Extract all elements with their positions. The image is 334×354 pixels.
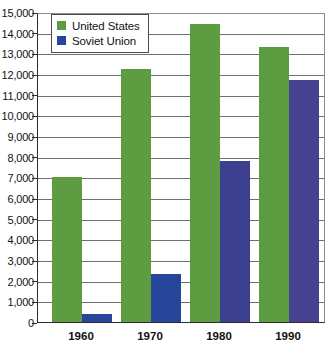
bar-united-states-1980 (190, 24, 220, 322)
y-tick-label: 9,000 (0, 131, 34, 143)
bar-soviet-union-1980 (220, 161, 250, 322)
bar-chart: 01,0002,0003,0004,0005,0006,0007,0008,00… (0, 0, 334, 354)
x-tick-label-1970: 1970 (137, 330, 163, 342)
y-tick-label: 5,000 (0, 214, 34, 226)
y-tick-label: 12,000 (0, 69, 34, 81)
y-tick-label: 11,000 (0, 90, 34, 102)
legend-label-soviet-union: Soviet Union (72, 35, 136, 47)
y-tick-label: 7,000 (0, 172, 34, 184)
y-tick-label: 14,000 (0, 28, 34, 40)
y-tick-label: 3,000 (0, 255, 34, 267)
x-tick-label-1990: 1990 (275, 330, 301, 342)
bar-soviet-union-1970 (151, 274, 181, 322)
y-tick-label: 13,000 (0, 48, 34, 60)
y-tick-label: 0 (0, 317, 34, 329)
legend-item-united-states: United States (57, 18, 140, 33)
x-tick-label-1980: 1980 (206, 330, 232, 342)
y-tick-label: 4,000 (0, 234, 34, 246)
y-tick-label: 15,000 (0, 7, 34, 19)
bar-united-states-1970 (121, 69, 151, 322)
y-tick-label: 6,000 (0, 193, 34, 205)
plot-area (37, 13, 325, 323)
legend-swatch-soviet-union (57, 36, 66, 45)
legend-item-soviet-union: Soviet Union (57, 33, 140, 48)
y-tick-label: 10,000 (0, 110, 34, 122)
legend-label-united-states: United States (72, 20, 140, 32)
bar-united-states-1990 (259, 47, 289, 322)
legend-swatch-united-states (57, 21, 66, 30)
bar-united-states-1960 (52, 177, 82, 322)
chart-legend: United States Soviet Union (51, 14, 149, 53)
y-tick-label: 2,000 (0, 276, 34, 288)
bar-soviet-union-1990 (289, 80, 319, 322)
bars-layer (38, 14, 324, 322)
y-tick-label: 8,000 (0, 152, 34, 164)
bar-soviet-union-1960 (82, 314, 112, 322)
y-tick-label: 1,000 (0, 296, 34, 308)
x-tick-label-1960: 1960 (68, 330, 94, 342)
